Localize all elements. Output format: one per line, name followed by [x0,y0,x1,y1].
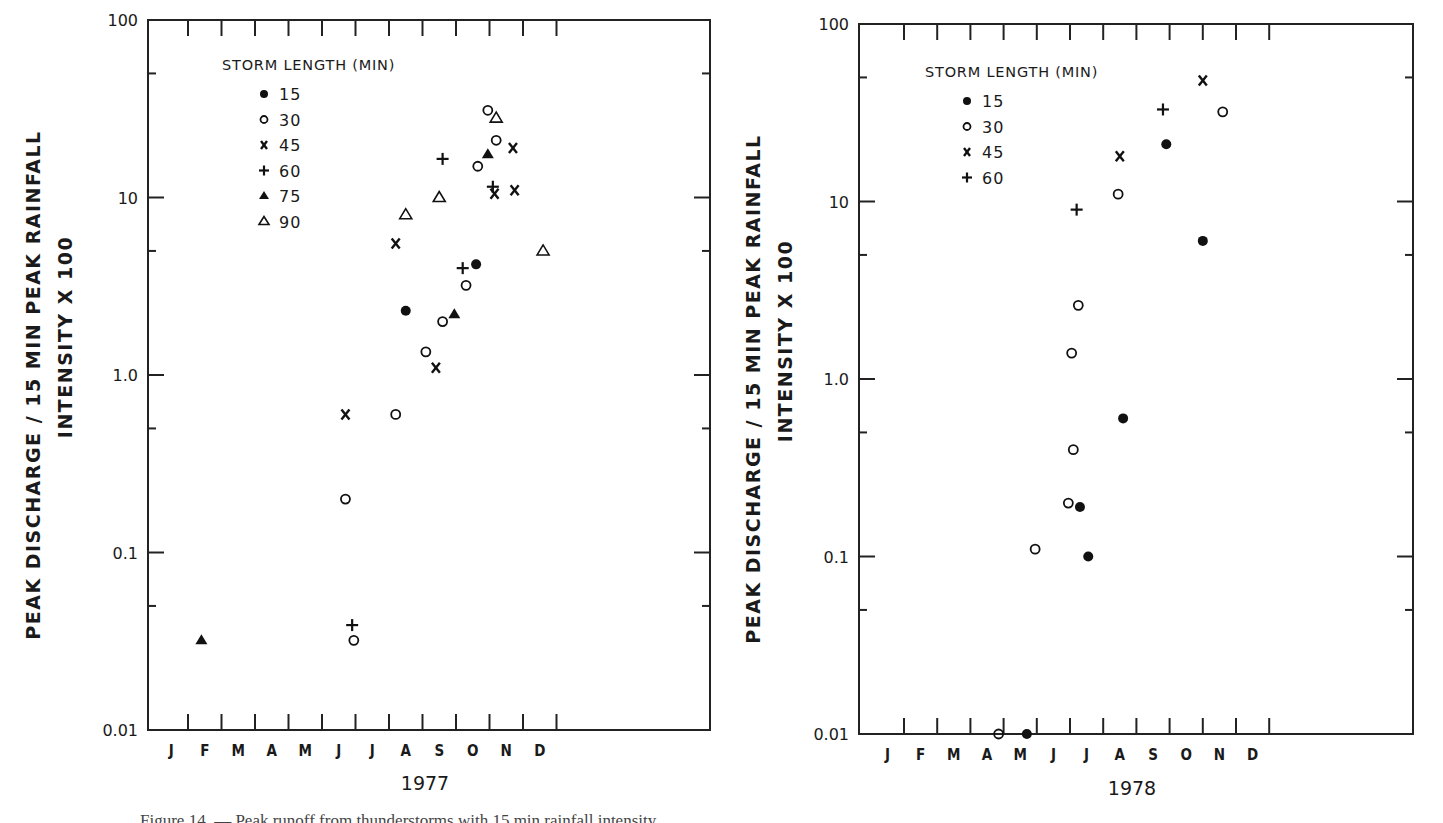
month-label: J [335,742,341,760]
open-triangle-marker-icon [400,209,412,219]
chart-panel-1977: 0.010.11.010100JFMAMJJASOND1977PEAK DISC… [22,11,710,794]
x-marker-icon [392,239,400,249]
filled-circle-marker-icon [963,97,971,105]
series-75-min [195,148,493,644]
x-marker-icon [509,143,517,153]
series-15-min [1022,139,1208,739]
open-circle-marker-icon [261,116,268,123]
legend-label: 75 [279,187,301,206]
open-circle-marker-icon [1114,190,1123,199]
y-tick-label: 0.01 [102,721,138,740]
month-label: M [232,742,245,760]
open-circle-marker-icon [438,317,447,326]
plus-marker-icon [437,153,449,165]
x-marker-icon [261,141,267,149]
x-axis-title: 1977 [401,772,449,794]
open-circle-marker-icon [473,162,482,171]
series-60-min [346,153,499,631]
month-label: J [1050,746,1056,764]
open-circle-marker-icon [1218,107,1227,116]
plot-frame [148,20,710,730]
series-90-min [400,112,549,255]
filled-circle-marker-icon [1075,502,1085,512]
month-label: F [916,746,925,764]
y-axis-title-line1: PEAK DISCHARGE / 15 MIN PEAK RAINFALL [22,130,44,639]
open-circle-marker-icon [349,636,358,645]
plus-marker-icon [962,173,972,183]
open-circle-marker-icon [1064,499,1073,508]
plus-marker-icon [457,262,469,274]
x-marker-icon [1199,76,1207,86]
x-marker-icon [341,409,349,419]
month-label: F [200,742,209,760]
month-label: D [1247,746,1258,764]
y-axis-title-line2: INTENSITY X 100 [774,240,796,442]
filled-triangle-marker-icon [482,148,494,158]
open-circle-marker-icon [492,136,501,145]
filled-triangle-marker-icon [259,191,269,199]
open-circle-marker-icon [483,106,492,115]
month-label: M [1013,746,1026,764]
y-axis-title-line2: INTENSITY X 100 [54,236,76,438]
open-circle-marker-icon [1067,349,1076,358]
month-label: O [1180,746,1191,764]
month-label: A [982,746,993,764]
open-triangle-marker-icon [259,217,269,225]
plus-marker-icon [346,619,358,631]
legend-label: 60 [279,162,301,181]
plot-frame [859,24,1413,734]
filled-circle-marker-icon [1022,729,1032,739]
legend-label: 30 [982,118,1004,137]
plus-marker-icon [1071,204,1083,216]
figure-canvas: 0.010.11.010100JFMAMJJASOND1977PEAK DISC… [0,0,1443,823]
month-label: D [534,742,545,760]
figure-caption: Figure 14. — Peak runoff from thundersto… [140,808,1440,823]
legend-label: 45 [279,136,301,155]
month-label: A [401,742,412,760]
x-marker-icon [511,185,519,195]
filled-triangle-marker-icon [195,634,207,644]
series-30-min [341,106,501,645]
series-30-min [994,107,1227,738]
series-45-min [1116,76,1207,162]
month-label: O [467,742,478,760]
y-tick-label: 0.1 [113,544,138,563]
filled-circle-marker-icon [260,90,268,98]
legend-label: 15 [279,85,301,104]
month-label: A [1115,746,1126,764]
legend-title: STORM LENGTH (MIN) [925,64,1098,80]
legend-label: 90 [279,213,301,232]
open-triangle-marker-icon [433,192,445,202]
open-circle-marker-icon [1069,445,1078,454]
x-marker-icon [432,363,440,373]
x-axis-title: 1978 [1108,777,1156,799]
legend: STORM LENGTH (MIN)153045607590 [222,57,395,232]
legend-label: 15 [982,92,1004,111]
month-label: J [884,746,890,764]
chart-panel-1978: 0.010.11.010100JFMAMJJASOND1978PEAK DISC… [742,15,1413,799]
month-label: M [299,742,312,760]
open-circle-marker-icon [1031,545,1040,554]
open-circle-marker-icon [462,281,471,290]
open-circle-marker-icon [391,410,400,419]
legend-label: 45 [982,143,1004,162]
open-circle-marker-icon [341,495,350,504]
y-tick-label: 100 [107,11,138,30]
legend-label: 60 [982,169,1004,188]
legend-label: 30 [279,111,301,130]
filled-circle-marker-icon [1161,139,1171,149]
filled-circle-marker-icon [471,259,481,269]
plus-marker-icon [1157,103,1169,115]
x-marker-icon [1116,151,1124,161]
legend: STORM LENGTH (MIN)15304560 [925,64,1098,188]
filled-circle-marker-icon [1198,236,1208,246]
month-label: N [501,742,512,760]
open-circle-marker-icon [1074,301,1083,310]
filled-circle-marker-icon [1083,552,1093,562]
month-label: S [1148,746,1158,764]
filled-circle-marker-icon [401,306,411,316]
y-tick-label: 100 [818,15,849,34]
filled-triangle-marker-icon [448,308,460,318]
x-marker-icon [491,189,499,199]
y-tick-label: 10 [829,193,849,212]
